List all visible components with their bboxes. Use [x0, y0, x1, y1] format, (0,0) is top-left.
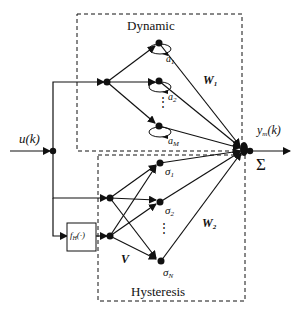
label-a2-sub: 2: [173, 96, 177, 104]
label-a2: a2: [168, 92, 177, 104]
label-sigma2: σ2: [165, 205, 174, 218]
label-aM: aM: [168, 136, 179, 148]
dynamic-edge-aM: [107, 82, 155, 123]
operator-input-path: [53, 198, 67, 236]
hysteresis-input-path-1: [53, 151, 107, 198]
output-label-tail: (k): [267, 123, 280, 137]
v-edge-1-N: [110, 198, 156, 258]
v-edge-1-2: [110, 198, 156, 200]
label-a1: a1: [166, 54, 175, 66]
w1-label-main: W: [203, 73, 214, 87]
v-edge-2-N: [110, 236, 156, 259]
dynamic-input-path: [53, 82, 104, 151]
dynamic-ellipsis: ⋮: [157, 96, 169, 108]
v-label: V: [121, 253, 129, 265]
label-sigmaN: σN: [163, 267, 173, 280]
label-sigma2-sub: 2: [170, 210, 174, 218]
w1-label: W1: [203, 74, 217, 88]
sum-symbol: Σ: [256, 156, 266, 173]
operator-label: fH(·): [70, 231, 85, 241]
w2-label: W2: [202, 217, 216, 231]
label-sigmaN-sub: N: [168, 272, 173, 280]
hysteresis-ellipsis: ⋮: [158, 222, 170, 234]
v-edge-1-1: [110, 165, 156, 198]
w1-label-sub: 1: [214, 80, 218, 88]
label-a1-sub: 1: [171, 58, 175, 66]
label-aM-sub: M: [173, 140, 179, 148]
w2-edge-sigma1: [160, 151, 240, 163]
input-label: u(k): [19, 132, 40, 145]
label-sigma1: σ1: [165, 166, 174, 179]
output-label: ym(k): [257, 124, 281, 138]
hysteresis-block-label: Hysteresis: [131, 285, 185, 298]
dynamic-block-label: Dynamic: [127, 19, 175, 32]
v-edge-2-2: [110, 204, 156, 236]
v-edge-2-1: [110, 166, 156, 236]
dynamic-edge-a1: [107, 46, 155, 82]
label-sigma1-sub: 1: [170, 171, 174, 179]
operator-label-tail: (·): [77, 230, 85, 240]
w2-label-sub: 2: [213, 223, 217, 231]
w2-label-main: W: [202, 216, 213, 230]
sum-node: [240, 142, 248, 156]
